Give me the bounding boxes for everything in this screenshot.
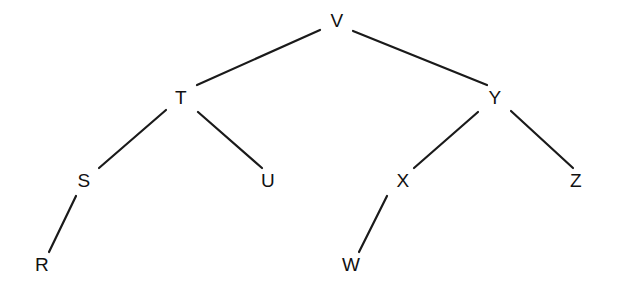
tree-edge-v-y (353, 31, 487, 85)
edge-layer (49, 30, 573, 252)
tree-node-t: T (175, 87, 187, 108)
tree-edge-x-w (359, 196, 387, 252)
tree-node-z: Z (570, 170, 582, 191)
tree-diagram: VTYSUXZRW (0, 0, 617, 295)
tree-node-u: U (261, 170, 275, 191)
tree-node-w: W (342, 254, 360, 275)
tree-edge-t-u (198, 112, 262, 168)
tree-node-v: V (331, 10, 344, 31)
tree-node-y: Y (489, 87, 502, 108)
node-layer: VTYSUXZRW (35, 10, 582, 275)
tree-edge-y-z (511, 111, 573, 168)
tree-edge-y-x (414, 112, 478, 168)
tree-edge-s-r (49, 196, 76, 252)
tree-canvas: VTYSUXZRW (0, 0, 617, 295)
tree-node-s: S (78, 170, 91, 191)
tree-node-x: X (397, 170, 410, 191)
tree-edge-t-s (99, 110, 166, 168)
tree-node-r: R (35, 254, 49, 275)
tree-edge-v-t (197, 30, 320, 85)
